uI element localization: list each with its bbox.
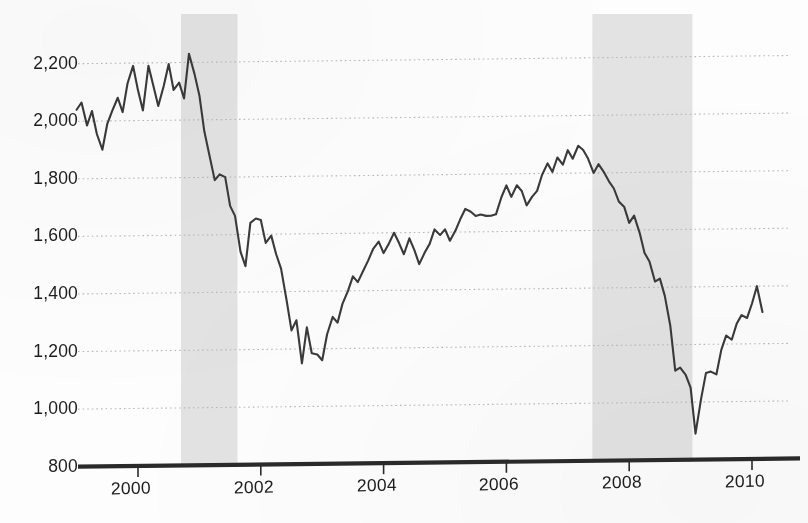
chart-page: 8001,0001,2001,4001,6001,8002,0002,200 2…: [0, 0, 808, 523]
line-chart-figure: 8001,0001,2001,4001,6001,8002,0002,200 2…: [0, 0, 808, 523]
x-tick-label-2002: 2002: [234, 476, 274, 498]
x-axis-tick-labels: 200020022004200620082010: [0, 0, 808, 523]
x-tick-label-2010: 2010: [725, 471, 765, 493]
x-tick-label-2006: 2006: [479, 473, 519, 495]
x-tick-label-2008: 2008: [602, 472, 642, 494]
x-tick-label-2004: 2004: [356, 475, 396, 497]
x-tick-label-2000: 2000: [111, 478, 151, 500]
